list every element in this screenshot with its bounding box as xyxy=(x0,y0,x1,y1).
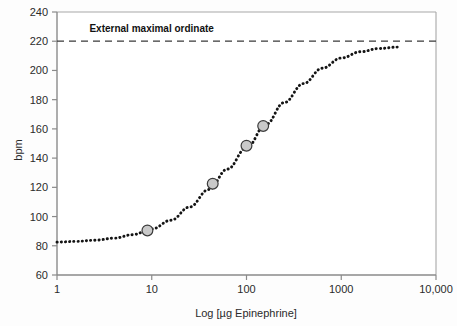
data-point-marker xyxy=(258,121,269,132)
y-tick-label-160: 160 xyxy=(30,123,48,135)
y-tick-label-100: 100 xyxy=(30,211,48,223)
annotation-external-maximal-ordinate: External maximal ordinate xyxy=(89,23,214,34)
y-axis-tick-labels: 6080100120140160180200220240 xyxy=(30,6,48,281)
y-tick-label-140: 140 xyxy=(30,152,48,164)
y-tick-label-80: 80 xyxy=(36,240,48,252)
x-axis-title: Log [µg Epinephrine] xyxy=(195,307,297,319)
x-tick-label-10: 10 xyxy=(146,283,158,295)
x-tick-label-1: 1 xyxy=(54,283,60,295)
y-tick-label-60: 60 xyxy=(36,269,48,281)
x-tick-label-10000: 10,000 xyxy=(419,283,453,295)
chart-annotations: External maximal ordinate xyxy=(89,23,214,34)
y-tick-label-220: 220 xyxy=(30,35,48,47)
y-tick-label-120: 120 xyxy=(30,181,48,193)
y-tick-label-240: 240 xyxy=(30,6,48,18)
y-axis-title: bpm xyxy=(12,139,24,160)
data-point-marker xyxy=(142,225,153,236)
x-axis-ticks xyxy=(57,275,436,280)
x-tick-label-1000: 1000 xyxy=(329,283,353,295)
y-axis-ticks xyxy=(52,12,57,275)
x-tick-label-100: 100 xyxy=(237,283,255,295)
y-tick-label-200: 200 xyxy=(30,64,48,76)
y-tick-label-180: 180 xyxy=(30,94,48,106)
data-point-marker xyxy=(241,140,252,151)
data-point-marker xyxy=(207,178,218,189)
chart-figure: 6080100120140160180200220240 11010010001… xyxy=(0,0,457,326)
x-axis-tick-labels: 110100100010,000 xyxy=(54,283,453,295)
dose-response-chart: 6080100120140160180200220240 11010010001… xyxy=(0,0,457,326)
